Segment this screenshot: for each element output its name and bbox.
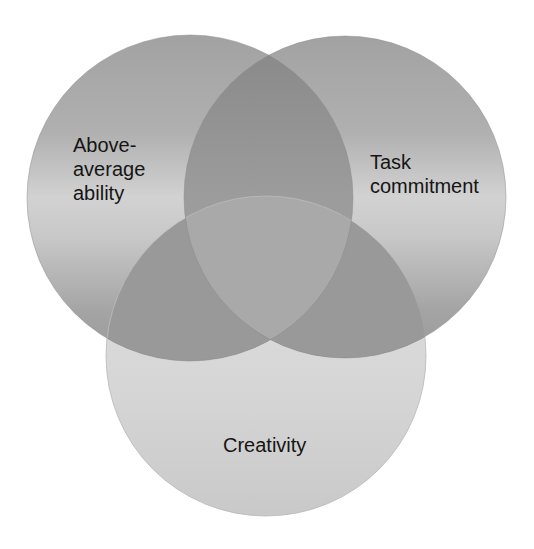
task-label-line-1: Task [370,150,479,174]
creativity-label: Creativity [223,433,306,457]
creativity-label-line-1: Creativity [223,433,306,457]
ability-label: Above- average ability [73,133,145,205]
task-label-line-2: commitment [370,174,479,198]
task-commitment-label: Task commitment [370,150,479,198]
ability-label-line-1: Above- [73,133,145,157]
ability-label-line-3: ability [73,181,145,205]
venn-diagram [0,0,534,549]
ability-label-line-2: average [73,157,145,181]
